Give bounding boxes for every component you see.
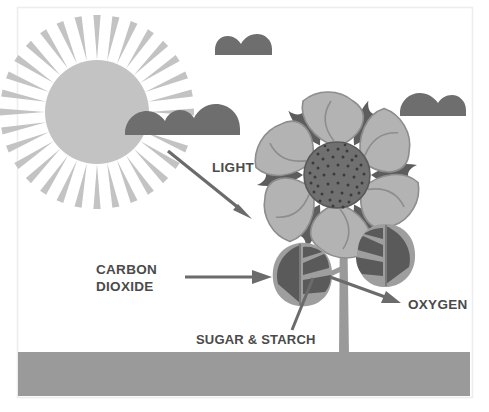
flower-center <box>304 142 370 209</box>
label-carbon-dioxide-line2: DIOXIDE <box>96 279 154 294</box>
label-carbon-dioxide-line1: CARBON <box>96 262 157 277</box>
photosynthesis-diagram: LIGHT CARBON DIOXIDE OXYGEN SUGAR & STAR… <box>0 0 489 412</box>
cloud-right <box>400 93 466 116</box>
sun <box>0 15 194 209</box>
label-sugar-starch: SUGAR & STARCH <box>196 332 316 347</box>
carbon-dioxide-arrow <box>185 270 272 284</box>
ground-band <box>18 352 470 396</box>
label-oxygen: OXYGEN <box>408 297 468 312</box>
sun-disc <box>45 60 149 164</box>
cloud-top <box>215 34 272 55</box>
photosynthesis-diagram-canvas: LIGHT CARBON DIOXIDE OXYGEN SUGAR & STAR… <box>0 0 489 412</box>
leaf-left <box>273 243 332 306</box>
leaf-right <box>356 224 415 287</box>
label-light: LIGHT <box>212 160 254 175</box>
